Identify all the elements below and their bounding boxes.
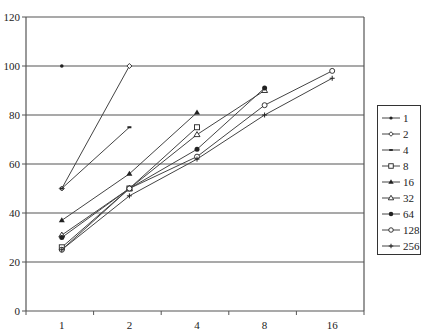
marker-filled-triangle [59,217,65,222]
legend-item-16: 16 [381,174,420,190]
x-tick-label: 8 [262,319,268,331]
marker-filled-triangle [194,110,200,115]
marker-plus [262,113,267,118]
legend-marker-icon [381,209,401,219]
marker-open-square [389,164,394,169]
marker-open-circle [389,228,394,233]
marker-dash [60,188,64,190]
legend-marker-icon [381,129,401,139]
series-line [62,66,130,189]
marker-small-dot [60,64,64,68]
marker-filled-circle [59,235,64,240]
y-tick-label: 80 [9,109,21,121]
legend-item-64: 64 [381,206,420,222]
marker-dash [389,149,393,151]
line-chart: 020406080100120 124816 [0,0,427,333]
x-tick-label: 1 [59,319,65,331]
legend-marker-icon [381,225,401,235]
data-series [59,64,335,253]
legend-marker-icon [381,177,401,187]
legend-marker-icon [381,145,401,155]
x-tick-label: 2 [127,319,133,331]
marker-small-dot [389,116,392,119]
legend-label: 2 [403,128,409,140]
legend-marker-icon [381,193,401,203]
legend-marker-icon [381,161,401,171]
legend-label: 16 [403,176,414,188]
series-line [62,127,130,188]
legend-item-4: 4 [381,142,420,158]
marker-dash [127,126,131,128]
marker-open-diamond [127,64,132,69]
x-tick-label: 16 [327,319,339,331]
legend-label: 32 [403,192,414,204]
marker-open-diamond [389,132,394,137]
x-axis-tick-labels: 124816 [59,319,338,331]
legend-marker-icon [381,113,401,123]
legend-label: 8 [403,160,409,172]
legend-marker-icon [381,241,401,251]
marker-open-square [195,125,200,130]
y-tick-label: 0 [15,305,21,317]
legend-item-256: 256 [381,238,420,254]
legend-label: 1 [403,112,409,124]
legend-item-8: 8 [381,158,420,174]
y-tick-label: 60 [9,158,21,170]
y-tick-label: 20 [9,256,21,268]
series-1 [60,64,64,68]
x-tick-label: 4 [194,319,200,331]
marker-filled-circle [389,212,394,217]
legend-label: 4 [403,144,409,156]
marker-filled-circle [262,86,267,91]
y-tick-label: 40 [9,207,21,219]
legend-item-1: 1 [381,110,420,126]
legend-label: 64 [403,208,414,220]
y-tick-label: 100 [4,60,21,72]
marker-plus [389,244,394,249]
axes [22,17,364,315]
marker-plus [330,76,335,81]
legend-label: 256 [403,240,420,252]
y-axis-tick-labels: 020406080100120 [4,11,21,317]
legend-item-32: 32 [381,190,420,206]
legend-item-128: 128 [381,222,420,238]
legend: 1248163264128256 [377,105,421,255]
legend-label: 128 [403,224,420,236]
marker-open-circle [262,103,267,108]
marker-open-circle [330,68,335,73]
marker-open-triangle [194,132,200,137]
marker-filled-circle [195,147,200,152]
y-tick-label: 120 [4,11,21,23]
marker-open-circle [127,186,132,191]
legend-item-2: 2 [381,126,420,142]
series-2 [59,64,132,192]
